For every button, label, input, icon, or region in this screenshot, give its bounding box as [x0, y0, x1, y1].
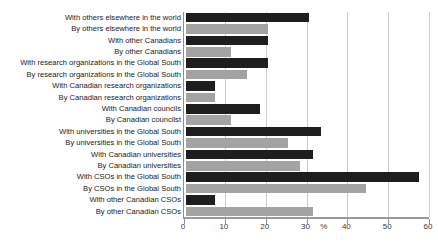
chart-row: With research organizations in the Globa…	[0, 58, 438, 69]
x-tick-label: 0	[181, 222, 185, 231]
bar-with	[186, 172, 419, 182]
bar-with	[186, 104, 260, 114]
bar-by	[186, 207, 313, 217]
bar-with	[186, 36, 268, 46]
chart-row: By Canadian research organizations	[0, 92, 438, 103]
x-tick-label: 40	[342, 222, 351, 231]
bar-track	[186, 81, 431, 91]
chart-row: With other Canadian CSOs	[0, 194, 438, 205]
chart-row: With Canadian councils	[0, 103, 438, 114]
bar-with	[186, 81, 215, 91]
bar-with	[186, 195, 215, 205]
category-label: With Canadian universities	[0, 151, 184, 159]
bar-track	[186, 93, 431, 103]
bar-by	[186, 70, 247, 80]
bar-track	[186, 138, 431, 148]
bar-with	[186, 150, 313, 160]
x-tick-label: 20	[260, 222, 269, 231]
category-label: With others elsewhere in the world	[0, 14, 184, 22]
bar-track	[186, 47, 431, 57]
bar-by	[186, 184, 366, 194]
bar-by	[186, 93, 215, 103]
bar-with	[186, 58, 268, 68]
chart-row: With others elsewhere in the world	[0, 12, 438, 23]
bar-with	[186, 13, 309, 23]
chart-row: By Canadian councilst	[0, 115, 438, 126]
category-label: By Canadian councilst	[0, 116, 184, 124]
horizontal-bar-chart: With others elsewhere in the worldBy oth…	[0, 0, 438, 246]
category-label: By other Canadians	[0, 48, 184, 56]
bar-track	[186, 172, 431, 182]
chart-row: By other Canadian CSOs	[0, 206, 438, 217]
bar-by	[186, 115, 231, 125]
bar-track	[186, 24, 431, 34]
chart-row: By research organizations in the Global …	[0, 69, 438, 80]
bar-track	[186, 36, 431, 46]
chart-row: With Canadian universities	[0, 149, 438, 160]
bar-with	[186, 127, 321, 137]
bar-track	[186, 207, 431, 217]
chart-row: By Canadian universities	[0, 160, 438, 171]
category-label: By universities in the Global South	[0, 139, 184, 147]
bar-track	[186, 13, 431, 23]
category-label: By others elsewhere in the world	[0, 25, 184, 33]
category-label: With Canadian councils	[0, 105, 184, 113]
category-label: By research organizations in the Global …	[0, 71, 184, 79]
bar-by	[186, 138, 288, 148]
bar-track	[186, 150, 431, 160]
x-tick-label: 60	[424, 222, 433, 231]
bar-by	[186, 161, 300, 171]
category-label: With Canadian research organizations	[0, 82, 184, 90]
category-label: With other Canadians	[0, 37, 184, 45]
category-label: With other Canadian CSOs	[0, 196, 184, 204]
chart-row: With other Canadians	[0, 35, 438, 46]
category-label: With research organizations in the Globa…	[0, 59, 184, 67]
x-axis-unit-label: %	[320, 222, 327, 231]
chart-row: With CSOs in the Global South	[0, 171, 438, 182]
category-label: By CSOs in the Global South	[0, 185, 184, 193]
bar-track	[186, 184, 431, 194]
category-label: By other Canadian CSOs	[0, 208, 184, 216]
bar-by	[186, 47, 231, 57]
bar-track	[186, 58, 431, 68]
category-label: With universities in the Global South	[0, 128, 184, 136]
x-tick-label: 10	[219, 222, 228, 231]
chart-row: By other Canadians	[0, 46, 438, 57]
bar-track	[186, 70, 431, 80]
chart-row: By universities in the Global South	[0, 137, 438, 148]
category-label: With CSOs in the Global South	[0, 173, 184, 181]
x-axis: 0102030405060%	[183, 222, 428, 234]
bar-track	[186, 195, 431, 205]
x-tick-label: 50	[383, 222, 392, 231]
bar-rows: With others elsewhere in the worldBy oth…	[0, 12, 438, 217]
bar-track	[186, 127, 431, 137]
x-tick-label: 30	[301, 222, 310, 231]
bar-track	[186, 115, 431, 125]
category-label: By Canadian universities	[0, 162, 184, 170]
bar-track	[186, 104, 431, 114]
chart-row: By others elsewhere in the world	[0, 23, 438, 34]
chart-row: With Canadian research organizations	[0, 80, 438, 91]
category-label: By Canadian research organizations	[0, 94, 184, 102]
bar-track	[186, 161, 431, 171]
bar-by	[186, 24, 268, 34]
chart-row: With universities in the Global South	[0, 126, 438, 137]
chart-row: By CSOs in the Global South	[0, 183, 438, 194]
